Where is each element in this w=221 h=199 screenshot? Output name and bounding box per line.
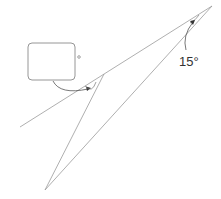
angle-label: 15° [179,54,199,69]
pointer-arc [53,81,88,91]
triangle-left-side [45,74,104,190]
pointer-arc-15 [185,22,193,50]
answer-box[interactable] [28,43,75,80]
degree-circle-icon [78,56,81,59]
triangle-right-side [45,6,212,190]
angle-diagram: 15° [0,0,221,199]
